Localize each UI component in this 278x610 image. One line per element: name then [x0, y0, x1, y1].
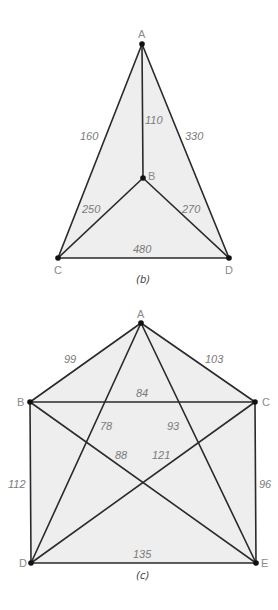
graph-figures: A B C D 160 110 330 250 270 480 (b) A B … — [0, 0, 278, 610]
vertex-label-c-D: D — [19, 557, 27, 569]
weight-b-C-D: 480 — [133, 243, 152, 255]
vertex-b-D — [226, 255, 232, 261]
vertex-c-B — [27, 399, 33, 405]
weight-c-B-C: 84 — [136, 387, 148, 399]
vertex-label-c-B: B — [17, 396, 24, 408]
weight-b-A-C: 160 — [80, 130, 99, 142]
caption-b: (b) — [136, 274, 150, 285]
vertex-label-b-D: D — [225, 264, 233, 276]
vertex-label-b-C: C — [54, 264, 62, 276]
vertex-label-c-C: C — [262, 396, 270, 408]
vertex-b-C — [55, 255, 61, 261]
weight-b-B-D: 270 — [181, 203, 201, 215]
weight-c-B-D: 112 — [8, 478, 26, 490]
weight-c-C-D: 121 — [152, 449, 170, 461]
weight-b-A-D: 330 — [185, 130, 204, 142]
vertex-label-b-B: B — [148, 170, 155, 182]
vertex-b-B — [140, 175, 146, 181]
weight-b-B-C: 250 — [81, 203, 101, 215]
vertex-b-A — [139, 41, 145, 47]
vertex-c-E — [253, 560, 259, 566]
weight-c-A-E: 93 — [167, 420, 180, 432]
vertex-label-c-A: A — [137, 308, 145, 320]
vertex-c-A — [138, 320, 144, 326]
vertex-c-C — [252, 399, 258, 405]
figure-b: A B C D 160 110 330 250 270 480 (b) — [54, 28, 233, 285]
edge-c-C-E — [255, 402, 256, 563]
weight-c-D-E: 135 — [133, 548, 152, 560]
weight-c-A-B: 99 — [64, 353, 76, 365]
vertex-c-D — [28, 560, 34, 566]
edge-c-B-D — [30, 402, 31, 563]
weight-c-B-E: 88 — [115, 449, 128, 461]
weight-c-A-C: 103 — [205, 353, 224, 365]
vertex-label-c-E: E — [261, 557, 268, 569]
weight-c-C-E: 96 — [259, 478, 272, 490]
vertex-label-b-A: A — [138, 28, 146, 40]
weight-c-A-D: 78 — [100, 420, 113, 432]
caption-c: (c) — [136, 570, 149, 581]
edge-b-A-B — [142, 44, 143, 178]
figure-c: A B C D E 99 103 84 78 93 88 121 112 96 … — [8, 308, 272, 581]
weight-b-A-B: 110 — [145, 114, 163, 126]
